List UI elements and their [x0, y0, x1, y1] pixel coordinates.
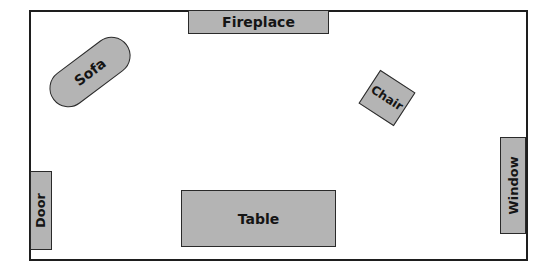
- door: Door: [30, 171, 52, 250]
- table-label: Table: [238, 211, 280, 227]
- table: Table: [181, 190, 336, 247]
- door-label: Door: [34, 193, 49, 228]
- fireplace: Fireplace: [188, 10, 329, 34]
- window: Window: [500, 137, 526, 234]
- chair-label: Chair: [368, 82, 405, 113]
- fireplace-label: Fireplace: [222, 14, 295, 30]
- window-label: Window: [506, 156, 521, 214]
- sofa-label: Sofa: [71, 55, 109, 89]
